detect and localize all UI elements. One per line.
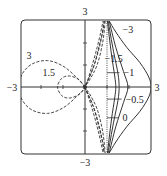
curve-1.5-lower: [85, 87, 104, 153]
y-axis-max-label: 3: [83, 6, 88, 17]
x-axis-max-label: 3: [155, 82, 160, 93]
curve-label: 1.5: [42, 67, 55, 78]
curve-label: 0: [122, 112, 127, 123]
x-axis-min-label: −3: [7, 82, 18, 93]
curve-1.5: [58, 21, 105, 98]
curve-label: −0.5: [126, 94, 144, 105]
curve-label: 3: [26, 50, 31, 61]
curve-label: −1.5: [105, 53, 123, 64]
conchoid-family-plot: 3−3−33−3−1.5−1−0.5031.5: [0, 0, 167, 176]
curve-label: −1: [124, 67, 135, 78]
curve-label: −3: [123, 24, 134, 35]
origin-point: [83, 85, 87, 89]
y-axis-min-label: −3: [80, 157, 91, 168]
